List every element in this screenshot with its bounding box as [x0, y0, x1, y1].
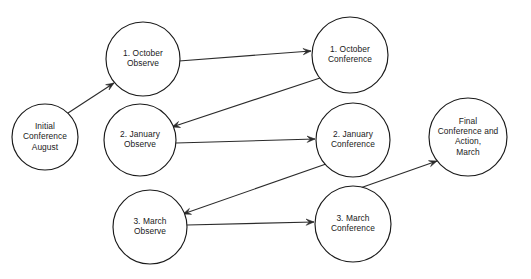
node-march-conference[interactable]: 3. MarchConference — [315, 186, 391, 262]
edge-january-observe-to-january-conference-line — [176, 139, 315, 143]
node-final-conference-and-action-march-label-line-4: March — [456, 147, 480, 157]
node-january-conference[interactable]: 2. JanuaryConference — [316, 103, 390, 177]
node-october-observe-label-line-2: Observe — [127, 58, 159, 68]
node-initial-conference-august-label-line-2: Conference — [23, 131, 67, 141]
node-initial-conference-august[interactable]: InitialConferenceAugust — [12, 104, 78, 170]
node-march-observe-label-line-2: Observe — [134, 226, 166, 236]
edge-january-conference-to-march-observe — [183, 164, 326, 214]
node-march-observe[interactable]: 3. MarchObserve — [113, 190, 187, 264]
edge-initial-to-october-observe-arrowhead — [106, 83, 114, 90]
edge-october-observe-to-october-conference-line — [179, 51, 311, 61]
node-march-conference-label-line-2: Conference — [331, 223, 375, 233]
node-initial-conference-august-label-line-3: August — [32, 142, 59, 152]
diagram-canvas: InitialConferenceAugust1. OctoberObserve… — [0, 0, 531, 279]
node-january-observe-label-line-1: 2. January — [120, 129, 161, 139]
node-october-observe[interactable]: 1. OctoberObserve — [106, 22, 180, 96]
node-october-conference[interactable]: 1. OctoberConference — [312, 17, 388, 93]
edge-january-observe-to-january-conference — [176, 136, 315, 143]
edge-initial-to-october-observe-line — [68, 83, 114, 113]
edge-october-conference-to-january-observe — [172, 78, 320, 128]
node-january-observe[interactable]: 2. JanuaryObserve — [104, 104, 176, 176]
flowchart-diagram: InitialConferenceAugust1. OctoberObserve… — [0, 0, 531, 279]
node-march-observe-label-line-1: 3. March — [133, 216, 166, 226]
node-march-conference-label-line-1: 3. March — [336, 213, 369, 223]
node-initial-conference-august-label-line-1: Initial — [35, 121, 55, 131]
node-january-conference-label-line-2: Conference — [331, 139, 375, 149]
edge-initial-to-october-observe — [68, 83, 114, 113]
node-january-conference-label-line-1: 2. January — [333, 129, 374, 139]
edge-october-observe-to-october-conference — [179, 48, 311, 61]
node-january-observe-label-line-2: Observe — [124, 139, 156, 149]
edge-march-observe-to-march-conference — [187, 219, 314, 225]
node-october-conference-label-line-2: Conference — [328, 54, 372, 64]
node-final-conference-and-action-march-label-line-1: Final — [459, 116, 478, 126]
node-final-conference-and-action-march[interactable]: FinalConference andAction,March — [429, 98, 507, 176]
node-october-observe-label-line-1: 1. October — [123, 48, 163, 58]
edge-january-conference-to-march-observe-line — [183, 164, 326, 214]
node-final-conference-and-action-march-label-line-3: Action, — [455, 136, 481, 146]
node-final-conference-and-action-march-label-line-2: Conference and — [438, 126, 499, 136]
node-october-conference-label-line-1: 1. October — [330, 44, 370, 54]
edge-october-conference-to-january-observe-line — [172, 78, 320, 127]
edge-march-observe-to-march-conference-line — [187, 222, 314, 225]
